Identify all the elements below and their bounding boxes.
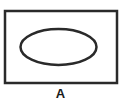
- set-ellipse: [21, 29, 97, 65]
- diagram-label: A: [0, 86, 121, 101]
- universal-set-rectangle: [5, 11, 117, 83]
